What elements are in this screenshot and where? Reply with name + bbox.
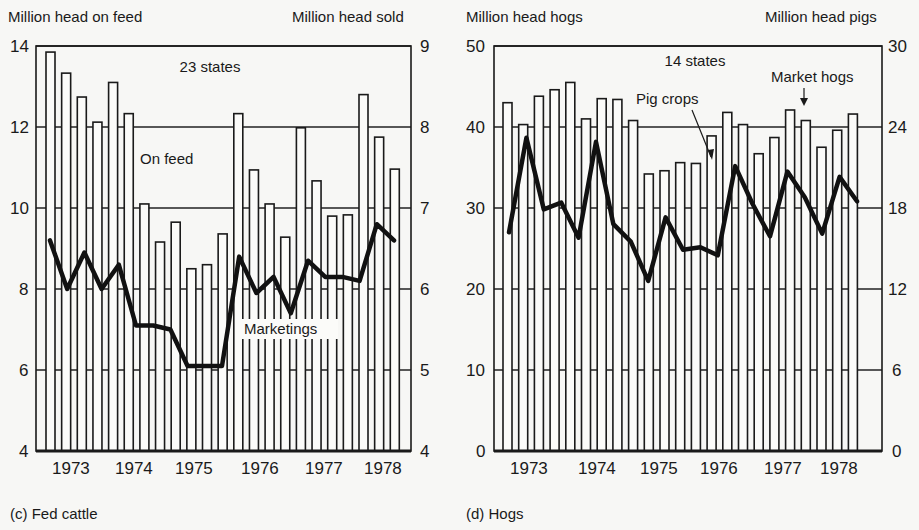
bar	[660, 171, 669, 451]
bar	[848, 114, 857, 451]
bar	[77, 97, 86, 451]
bar	[249, 170, 258, 451]
bar	[723, 112, 732, 451]
label-hogs-pig-crops: Pig crops	[636, 90, 699, 107]
fed-cattle-plot: 23 statesOn feedMarketings	[36, 46, 411, 451]
pointer-arrow	[692, 110, 711, 157]
bar	[343, 215, 352, 451]
bar	[644, 174, 653, 451]
bar	[613, 99, 622, 451]
bar	[62, 73, 71, 451]
bar	[629, 121, 638, 451]
hogs-plot: 14 statesPig cropsMarket hogs	[494, 46, 882, 451]
bar	[707, 136, 716, 451]
label-hogs-market-hogs: Market hogs	[771, 68, 854, 85]
bar	[691, 163, 700, 451]
bar	[203, 265, 212, 451]
label-cattle-marketings: Marketings	[244, 320, 317, 337]
bar	[770, 138, 779, 451]
bar	[566, 82, 575, 451]
states-annotation: 23 states	[180, 58, 241, 75]
bar	[786, 110, 795, 451]
bar	[187, 269, 196, 451]
bar	[312, 181, 321, 451]
bar	[156, 242, 165, 451]
bar	[390, 169, 399, 451]
bar	[817, 147, 826, 451]
bar	[676, 163, 685, 451]
bar	[534, 96, 543, 451]
bar	[375, 137, 384, 451]
bar	[754, 154, 763, 451]
states-annotation: 14 states	[665, 52, 726, 69]
bar	[801, 121, 810, 451]
bar	[550, 90, 559, 451]
bar	[503, 103, 512, 451]
bar	[281, 237, 290, 451]
bars-on-feed	[46, 52, 399, 451]
bars-market-hogs	[503, 82, 873, 451]
label-cattle-on-feed: On feed	[140, 150, 193, 167]
plots-canvas: 23 statesOn feedMarketings14 statesPig c…	[0, 0, 919, 530]
